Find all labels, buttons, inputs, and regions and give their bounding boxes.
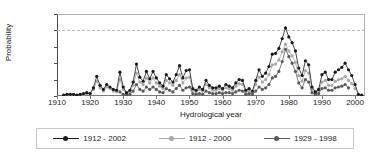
data-point — [151, 76, 154, 79]
legend-entry-3[interactable]: 1929 - 1998 — [264, 134, 337, 143]
data-point — [344, 75, 347, 78]
data-point — [334, 86, 337, 89]
data-point — [310, 91, 313, 94]
series-line — [64, 28, 362, 95]
x-tick-mark — [57, 96, 58, 99]
x-tick-label: 2000 — [340, 99, 370, 107]
data-point — [304, 69, 307, 72]
data-point — [105, 83, 108, 86]
x-tick-mark — [189, 96, 190, 99]
data-point — [171, 90, 174, 93]
x-tick-label: 1950 — [174, 99, 204, 107]
data-point — [340, 85, 343, 88]
data-point — [175, 87, 178, 90]
data-point — [314, 90, 317, 93]
data-point — [191, 92, 194, 95]
series-1 — [62, 26, 363, 96]
data-point — [85, 91, 88, 94]
data-point — [168, 89, 171, 92]
data-point — [132, 89, 135, 92]
data-point — [142, 80, 145, 83]
data-point — [284, 26, 287, 29]
data-point — [277, 70, 280, 73]
data-point — [291, 41, 294, 44]
data-point — [181, 89, 184, 92]
data-point — [310, 85, 313, 88]
y-axis-title: Probability — [4, 13, 13, 73]
data-point — [161, 91, 164, 94]
data-point — [151, 85, 154, 88]
x-tick-mark — [355, 96, 356, 99]
data-point — [284, 43, 287, 46]
data-point — [138, 76, 141, 79]
legend-entry-2[interactable]: 1912 - 2000 — [159, 134, 232, 143]
data-point — [334, 71, 337, 74]
y-tick-mark — [54, 47, 57, 48]
data-point — [267, 65, 270, 68]
data-point — [185, 86, 188, 89]
data-point — [297, 67, 300, 70]
data-point — [257, 76, 260, 79]
data-point — [261, 75, 264, 78]
data-point — [214, 92, 217, 95]
data-point — [327, 89, 330, 92]
data-point — [178, 64, 181, 67]
y-tick-mark — [54, 30, 57, 31]
x-tick-label: 1910 — [42, 99, 72, 107]
data-point — [69, 93, 72, 96]
x-tick-mark — [90, 96, 91, 99]
chart-legend: 1912 - 20021912 - 20001929 - 1998 — [36, 128, 354, 149]
data-point — [178, 84, 181, 87]
data-point — [188, 85, 191, 88]
data-point — [344, 83, 347, 86]
data-point — [148, 77, 151, 80]
data-point — [327, 78, 330, 81]
data-point — [132, 80, 135, 83]
data-point — [244, 89, 247, 92]
legend-marker-icon — [159, 134, 185, 143]
legend-marker-icon — [53, 134, 79, 143]
data-point — [294, 49, 297, 52]
data-point — [188, 68, 191, 71]
data-point — [165, 87, 168, 90]
data-point — [208, 84, 211, 87]
data-point — [224, 86, 227, 89]
data-point — [247, 92, 250, 95]
data-point — [151, 70, 154, 73]
x-tick-mark — [256, 96, 257, 99]
data-point — [95, 75, 98, 78]
data-point — [261, 80, 264, 83]
data-point — [317, 88, 320, 91]
data-point — [251, 89, 254, 92]
data-point — [231, 92, 234, 95]
data-point — [281, 37, 284, 40]
data-point — [79, 93, 82, 96]
data-point — [330, 89, 333, 92]
data-point — [145, 76, 148, 79]
data-point — [247, 87, 250, 90]
x-axis-title: Hydrological year — [57, 110, 365, 119]
data-point — [168, 81, 171, 84]
data-point — [324, 71, 327, 74]
data-point — [271, 53, 274, 56]
x-tick-label: 1940 — [141, 99, 171, 107]
y-tick-mark — [54, 14, 57, 15]
data-point — [304, 78, 307, 81]
data-point — [307, 63, 310, 66]
data-point — [317, 92, 320, 95]
data-point — [198, 92, 201, 95]
data-point — [274, 52, 277, 55]
x-tick-mark — [322, 96, 323, 99]
data-point — [204, 89, 207, 92]
data-point — [228, 85, 231, 88]
data-point — [115, 89, 118, 92]
data-point — [254, 89, 257, 92]
data-point — [297, 81, 300, 84]
data-point — [241, 79, 244, 82]
data-point — [244, 93, 247, 96]
data-point — [277, 58, 280, 61]
data-point — [337, 68, 340, 71]
data-point — [75, 94, 78, 96]
data-point — [257, 85, 260, 88]
legend-entry-1[interactable]: 1912 - 2002 — [53, 134, 126, 143]
